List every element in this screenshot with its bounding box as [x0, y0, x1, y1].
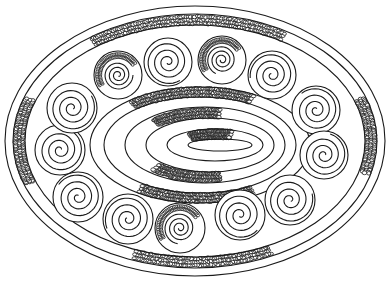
center-oval	[188, 139, 252, 151]
spiral-circle	[265, 175, 315, 225]
spiral-circle	[292, 86, 340, 134]
spiral-circle	[47, 83, 97, 133]
spiral-circle	[248, 51, 296, 99]
spiral-circle	[155, 203, 205, 253]
cobble-band-mid-top	[152, 107, 223, 126]
center-oval	[146, 118, 274, 172]
spiral-ring	[35, 36, 348, 253]
spiral-circle	[198, 36, 246, 84]
ornamental-oval-drawing	[0, 0, 390, 283]
spiral-circle	[144, 38, 192, 86]
spiral-circle	[215, 190, 265, 240]
spiral-circle	[94, 51, 142, 99]
spiral-circle	[300, 131, 348, 179]
cobble-band-top-outer	[90, 14, 286, 46]
spiral-circle	[103, 194, 153, 244]
spiral-circle	[53, 172, 103, 222]
cobble-band-mid-bottom	[151, 164, 222, 183]
